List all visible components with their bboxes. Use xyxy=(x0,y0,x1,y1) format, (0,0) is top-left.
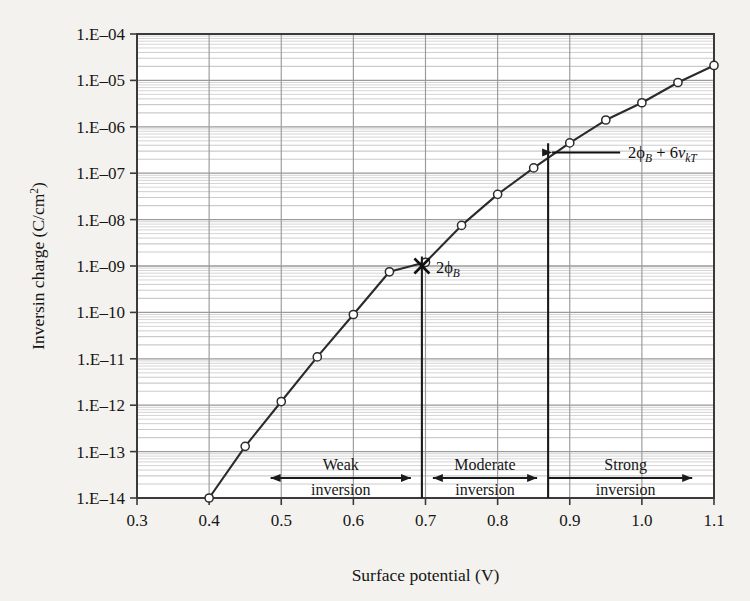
x-tick-label: 0.9 xyxy=(559,511,580,530)
region-label-line2: inversion xyxy=(596,481,656,498)
region-label-line2: inversion xyxy=(455,481,515,498)
y-tick-label: 1.E–14 xyxy=(76,489,125,508)
x-axis-title: Surface potential (V) xyxy=(352,565,500,585)
y-axis-title: Inversin charge (C/cm2) xyxy=(28,182,48,350)
region-label-line1: Moderate xyxy=(454,456,515,473)
data-point-marker xyxy=(674,78,682,86)
data-point-marker xyxy=(205,494,213,502)
data-point-marker xyxy=(385,268,393,276)
data-point-marker xyxy=(241,442,249,450)
data-point-marker xyxy=(457,221,465,229)
data-point-marker xyxy=(602,116,610,124)
x-tick-label: 0.8 xyxy=(487,511,508,530)
y-tick-label: 1.E–09 xyxy=(76,257,125,276)
y-tick-label: 1.E–04 xyxy=(76,25,125,44)
x-tick-label: 1.0 xyxy=(631,511,652,530)
x-tick-label: 0.7 xyxy=(415,511,437,530)
x-tick-label: 1.1 xyxy=(703,511,724,530)
y-tick-label: 1.E–05 xyxy=(76,71,125,90)
region-label-line1: Weak xyxy=(323,456,359,473)
y-tick-label: 1.E–11 xyxy=(77,350,125,369)
x-tick-label: 0.5 xyxy=(271,511,292,530)
data-point-marker xyxy=(349,310,357,318)
x-tick-label: 0.4 xyxy=(199,511,221,530)
x-tick-label: 0.6 xyxy=(343,511,364,530)
inversion-region-annotations: WeakinversionModerateinversionStronginve… xyxy=(271,456,693,498)
inversion-charge-chart: 1.E–141.E–131.E–121.E–111.E–101.E–091.E–… xyxy=(0,0,750,601)
data-point-marker xyxy=(710,61,718,69)
y-tick-label: 1.E–08 xyxy=(76,211,125,230)
y-tick-label: 1.E–13 xyxy=(76,443,125,462)
chart-figure: 1.E–141.E–131.E–121.E–111.E–101.E–091.E–… xyxy=(0,0,750,601)
data-point-marker xyxy=(277,397,285,405)
y-tick-label: 1.E–12 xyxy=(76,396,125,415)
data-point-marker xyxy=(638,99,646,107)
region-label-line1: Strong xyxy=(604,456,647,474)
data-point-marker xyxy=(494,190,502,198)
data-point-marker xyxy=(566,139,574,147)
y-tick-label: 1.E–10 xyxy=(76,303,125,322)
y-tick-label: 1.E–06 xyxy=(76,118,125,137)
y-tick-label: 1.E–07 xyxy=(76,164,125,183)
region-label-line2: inversion xyxy=(311,481,371,498)
data-point-marker xyxy=(530,164,538,172)
data-point-marker xyxy=(313,353,321,361)
x-tick-label: 0.3 xyxy=(126,511,147,530)
